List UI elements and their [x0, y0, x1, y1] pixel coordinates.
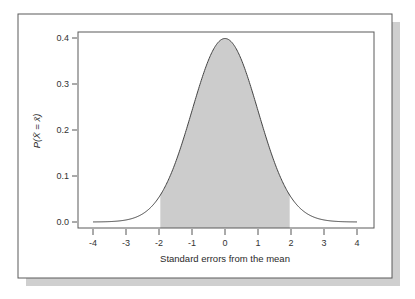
x-tick-label: -3 [122, 238, 130, 248]
x-tick-label: 0 [222, 238, 227, 248]
y-tick-label: 0.3 [56, 79, 69, 89]
x-tick-label: -4 [89, 238, 97, 248]
y-axis-title-text: P(X̄ = x̄) [31, 114, 42, 149]
x-tick-label: -1 [188, 238, 196, 248]
x-tick-label: 2 [288, 238, 293, 248]
y-tick-label: 0.2 [56, 125, 69, 135]
x-tick-label: 1 [255, 238, 260, 248]
x-axis-title: Standard errors from the mean [160, 253, 290, 264]
y-axis-title: P(X̄ = x̄) [31, 114, 42, 149]
svg-text:P(X̄ = x̄): P(X̄ = x̄) [31, 114, 42, 149]
x-tick-label: 4 [354, 238, 359, 248]
x-tick-label: 3 [321, 238, 326, 248]
y-tick-label: 0.0 [56, 217, 69, 227]
x-tick-label: -2 [155, 238, 163, 248]
y-tick-label: 0.1 [56, 171, 69, 181]
y-tick-label: 0.4 [56, 33, 69, 43]
chart-figure: -4-3-2-101234 0.00.10.20.30.4 Standard e… [0, 0, 415, 299]
